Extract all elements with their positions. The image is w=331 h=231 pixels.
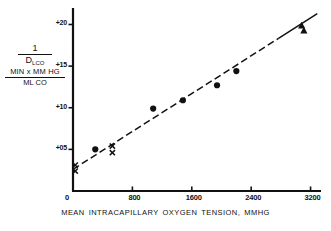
data-point-x [110, 150, 115, 155]
origin-tick-label: 0 [65, 193, 69, 202]
figure: 1 DLCO MIN x MM HG ML CO +05+10+15+20 80… [0, 0, 331, 231]
y-axis-tick-label: +15 [47, 61, 67, 68]
x-axis-tick-label: 800 [121, 193, 147, 202]
x-axis-tick-label: 1600 [181, 193, 207, 202]
plot-area [0, 0, 331, 231]
regression-line-dashed [73, 39, 278, 170]
y-axis-tick-label: +05 [47, 144, 67, 151]
regression-line-solid [278, 14, 317, 39]
x-axis-title: MEAN INTRACAPILLARY OXYGEN TENSION, MMHG [0, 208, 331, 217]
y-axis-tick-label: +20 [47, 19, 67, 26]
x-axis-tick-label: 2400 [240, 193, 266, 202]
data-point-circle [92, 146, 98, 152]
data-point-circle [233, 68, 239, 74]
dl-subscript-co: CO [35, 60, 44, 66]
y-axis-units-denominator: ML CO [5, 78, 65, 87]
data-point-circle [214, 82, 220, 88]
y-axis-label-units-fraction: MIN x MM HG ML CO [5, 68, 65, 86]
data-point-circle [150, 105, 156, 111]
data-points-layer [73, 22, 308, 174]
y-axis-tick-label: +10 [47, 103, 67, 110]
regression-line-layer [73, 14, 317, 170]
y-axis-label-numerator: 1 [18, 44, 52, 54]
data-point-circle [180, 97, 186, 103]
x-axis-tick-label: 3200 [300, 193, 326, 202]
y-axis-units-numerator: MIN x MM HG [5, 68, 65, 77]
